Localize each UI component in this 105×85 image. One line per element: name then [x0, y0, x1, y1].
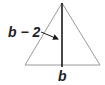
height-label: b − 2 [8, 24, 41, 40]
height-label-arrow [41, 32, 58, 39]
base-label: b [58, 68, 67, 84]
triangle-diagram: b − 2 b [0, 0, 105, 85]
